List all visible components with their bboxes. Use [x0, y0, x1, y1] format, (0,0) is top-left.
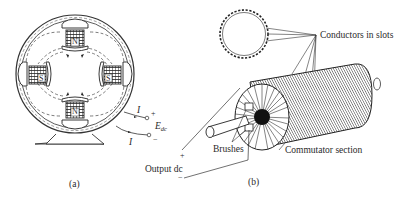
- terminal-plus: [145, 116, 149, 120]
- caption-b: (b): [248, 178, 259, 188]
- current-label-bottom: I: [129, 138, 132, 148]
- output-minus-label: −: [178, 174, 183, 182]
- current-label-top: I: [137, 106, 140, 116]
- pole-label-left: S: [39, 75, 43, 83]
- output-plus-label: +: [180, 152, 185, 160]
- pole-label-bottom: N: [72, 108, 78, 116]
- caption-a: (a): [69, 180, 80, 190]
- conductors-label: Conductors in slots: [320, 31, 393, 41]
- commutator-label: Commutator section: [285, 146, 362, 156]
- voltage-subscript: dc: [161, 125, 167, 132]
- pole-label-right: S: [106, 75, 110, 83]
- shaft-far-end: [374, 78, 381, 90]
- slotted-rotor-section: [220, 10, 268, 58]
- terminal-plus-label: +: [151, 110, 156, 118]
- figure-a-machine: [16, 15, 151, 144]
- output-leads: [116, 112, 148, 135]
- brush-top: [245, 103, 253, 110]
- terminal-minus: [147, 133, 151, 137]
- pole-label-top: N: [72, 38, 78, 46]
- terminal-minus-label: −: [153, 136, 158, 144]
- voltage-label: Edc: [155, 122, 167, 133]
- brushes-label: Brushes: [213, 145, 244, 155]
